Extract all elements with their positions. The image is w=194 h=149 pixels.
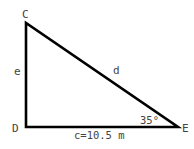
angle-label-e: 35°: [140, 114, 159, 126]
vertex-label-c: C: [22, 8, 29, 21]
vertex-label-d: D: [12, 122, 19, 135]
side-label-e: e: [14, 65, 21, 78]
vertex-label-e: E: [182, 122, 189, 135]
triangle-diagram: C D E e d c=10.5 m 35°: [0, 0, 194, 149]
triangle-cde: [26, 23, 178, 127]
side-label-d: d: [113, 64, 120, 77]
side-label-c: c=10.5 m: [74, 129, 125, 141]
